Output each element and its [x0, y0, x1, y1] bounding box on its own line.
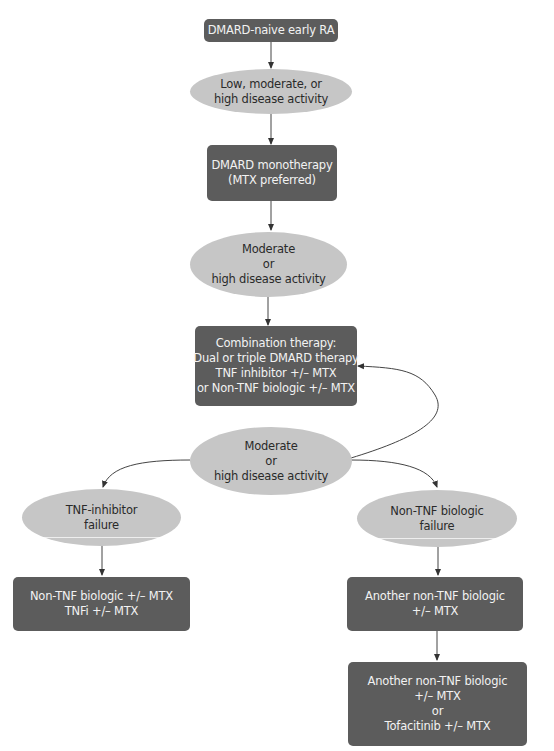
node-label: or: [432, 704, 443, 719]
node-tnf-failure-treatment: Non-TNF biologic +/– MTX TNFi +/– MTX: [13, 577, 190, 631]
node-label: Another non-TNF biologic: [368, 674, 508, 689]
node-label: Tofacitinib +/– MTX: [385, 719, 491, 734]
node-label: +/– MTX: [412, 604, 458, 619]
node-label: failure: [84, 518, 119, 533]
node-label: Moderate: [242, 242, 295, 257]
edge-activity-3-to-non-tnf-failure: [351, 460, 437, 487]
node-tnf-inhibitor-failure: TNF-inhibitor failure: [22, 489, 181, 546]
node-label: high disease activity: [214, 92, 328, 107]
node-label: Low, moderate, or: [220, 77, 322, 92]
flowchart: DMARD-naive early RA Low, moderate, or h…: [0, 0, 554, 751]
node-another-non-tnf-biologic: Another non-TNF biologic +/– MTX: [347, 577, 523, 631]
node-label: high disease activity: [214, 469, 328, 484]
node-label: TNFi +/– MTX: [65, 604, 139, 619]
node-low-moderate-high-activity: Low, moderate, or high disease activity: [190, 69, 352, 114]
node-label: TNF-inhibitor: [66, 503, 138, 518]
node-dmard-monotherapy: DMARD monotherapy (MTX preferred): [207, 145, 337, 201]
node-moderate-high-activity-1: Moderate or high disease activity: [190, 232, 347, 297]
edge-activity-3-to-tnf-failure: [103, 460, 190, 487]
node-moderate-high-activity-2: Moderate or high disease activity: [190, 427, 352, 495]
node-label: Non-TNF biologic +/– MTX: [30, 589, 173, 604]
node-label: or: [263, 257, 274, 272]
node-label: Another non-TNF biologic: [365, 589, 505, 604]
node-label: +/– MTX: [414, 689, 460, 704]
node-dmard-naive-early-ra: DMARD-naive early RA: [204, 19, 338, 42]
node-another-non-tnf-or-tofacitinib: Another non-TNF biologic +/– MTX or Tofa…: [348, 662, 527, 746]
node-label: DMARD monotherapy: [211, 158, 332, 173]
edge-activity-3-loop-to-combination: [351, 366, 438, 458]
node-label: Moderate: [244, 439, 297, 454]
node-label: Non-TNF biologic: [390, 504, 483, 519]
node-combination-therapy: Combination therapy: Dual or triple DMAR…: [195, 326, 357, 406]
node-label: (MTX preferred): [228, 173, 316, 188]
node-label: failure: [420, 519, 455, 534]
node-label: high disease activity: [211, 272, 325, 287]
node-label: or: [265, 454, 276, 469]
node-label: or Non-TNF biologic +/– MTX: [197, 381, 355, 396]
node-non-tnf-biologic-failure: Non-TNF biologic failure: [357, 490, 517, 547]
node-label: TNF inhibitor +/– MTX: [216, 366, 337, 381]
highlight-line: [373, 538, 501, 539]
node-label: Combination therapy:: [216, 336, 337, 351]
node-label: DMARD-naive early RA: [208, 23, 335, 38]
highlight-line: [38, 537, 165, 538]
node-label: Dual or triple DMARD therapy: [193, 351, 358, 366]
